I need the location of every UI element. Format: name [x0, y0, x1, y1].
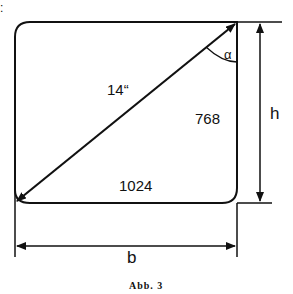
- prefix-colon: :: [0, 2, 3, 14]
- height-pixels-label: 768: [195, 111, 220, 126]
- width-pixels-label: 1024: [119, 178, 152, 193]
- width-dimension-label: b: [127, 249, 136, 266]
- figure-screen-dimensions: : 14“ α 768 1024 h b Abb. 3: [0, 0, 293, 294]
- figure-caption: Abb. 3: [129, 280, 163, 291]
- screen-diagram-drawing: [0, 0, 293, 294]
- angle-label: α: [224, 48, 232, 61]
- angle-arc: [206, 47, 237, 62]
- diagonal-label: 14“: [107, 82, 129, 97]
- height-dimension-label: h: [270, 105, 279, 122]
